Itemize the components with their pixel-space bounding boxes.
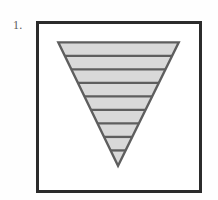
triangle-fill bbox=[58, 42, 178, 166]
inverted-triangle-diagram bbox=[39, 24, 199, 190]
item-number-label: 1. bbox=[13, 18, 22, 32]
figure-container: 1. bbox=[0, 0, 218, 200]
figure-panel bbox=[36, 21, 202, 193]
triangle-fill-group bbox=[58, 42, 178, 166]
